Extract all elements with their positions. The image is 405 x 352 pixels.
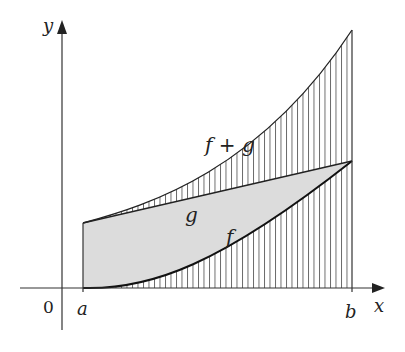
tick-label-a: a [77, 298, 88, 319]
y-axis-arrow-icon [57, 20, 67, 34]
x-axis-label: x [374, 295, 384, 316]
origin-label: 0 [43, 297, 54, 317]
y-axis-label: y [42, 15, 54, 36]
tick-label-b: b [345, 301, 357, 322]
sum-of-integrals-diagram: y x 0 a b f + g g f [0, 0, 405, 352]
curve-label-f-plus-g: f + g [203, 133, 255, 157]
x-axis-arrow-icon [372, 283, 385, 293]
curve-label-g: g [185, 203, 198, 227]
